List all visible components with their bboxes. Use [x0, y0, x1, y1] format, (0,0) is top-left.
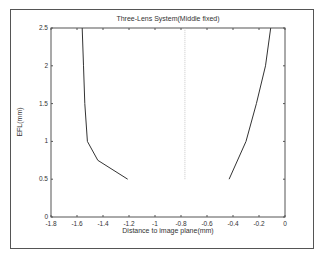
- x-tick-label: 0: [283, 220, 287, 227]
- x-tick-label: -1.8: [45, 220, 57, 227]
- y-axis-label: EFL(mm): [16, 107, 24, 136]
- series-group: [82, 28, 271, 179]
- x-tick-label: -1: [152, 220, 158, 227]
- y-axis: 00.511.522.5: [39, 24, 285, 220]
- x-axis-label: Distance to image plane(mm): [122, 227, 213, 235]
- y-tick-label: 1.5: [39, 100, 48, 107]
- x-axis: -1.8-1.6-1.4-1.2-1-0.8-0.6-0.4-0.20: [45, 28, 287, 227]
- x-tick-label: -0.6: [201, 220, 213, 227]
- x-tick-label: -0.4: [227, 220, 239, 227]
- chart: Three-Lens System(Middle fixed) -1.8-1.6…: [0, 0, 324, 253]
- x-tick-label: -0.8: [175, 220, 187, 227]
- y-tick-label: 2: [44, 62, 48, 69]
- series-line: [229, 28, 271, 179]
- y-tick-label: 0: [44, 213, 48, 220]
- y-tick-label: 1: [44, 137, 48, 144]
- x-tick-label: -1.6: [71, 220, 83, 227]
- x-tick-label: -0.2: [253, 220, 265, 227]
- chart-title: Three-Lens System(Middle fixed): [116, 15, 219, 23]
- x-tick-label: -1.2: [123, 220, 135, 227]
- y-tick-label: 2.5: [39, 24, 48, 31]
- x-tick-label: -1.4: [97, 220, 109, 227]
- y-tick-label: 0.5: [39, 175, 48, 182]
- series-line: [82, 28, 128, 179]
